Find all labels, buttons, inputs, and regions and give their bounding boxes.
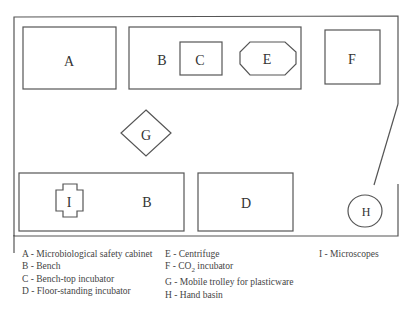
door-swing — [374, 104, 398, 185]
label-h: H — [362, 205, 371, 219]
label-i: I — [67, 195, 72, 210]
legend-col-1: A - Microbiological safety cabinet B - B… — [22, 248, 152, 297]
legend-col-3: I - Microscopes — [319, 248, 379, 260]
bench-top — [129, 27, 301, 89]
label-b-bottom: B — [142, 195, 151, 210]
legend-item-f: F - CO2 incubator — [165, 260, 293, 276]
label-e: E — [263, 52, 272, 67]
legend-item-b: B - Bench — [22, 260, 152, 272]
legend-item-e: E - Centrifuge — [165, 248, 293, 260]
legend-item-d: D - Floor-standing incubator — [22, 285, 152, 297]
label-g: G — [141, 128, 151, 143]
legend-item-g: G - Mobile trolley for plasticware — [165, 276, 293, 288]
legend-item-i: I - Microscopes — [319, 248, 379, 260]
legend-item-c: C - Bench-top incubator — [22, 273, 152, 285]
bench-bottom — [19, 173, 184, 231]
label-c: C — [195, 53, 204, 68]
legend-item-a: A - Microbiological safety cabinet — [22, 248, 152, 260]
label-f: F — [348, 52, 356, 67]
label-a: A — [64, 54, 75, 69]
label-b-top: B — [157, 53, 166, 68]
legend-col-2: E - Centrifuge F - CO2 incubator G - Mob… — [165, 248, 293, 301]
legend-item-h: H - Hand basin — [165, 289, 293, 301]
room-wall-bottom — [14, 184, 398, 236]
label-d: D — [241, 196, 251, 211]
